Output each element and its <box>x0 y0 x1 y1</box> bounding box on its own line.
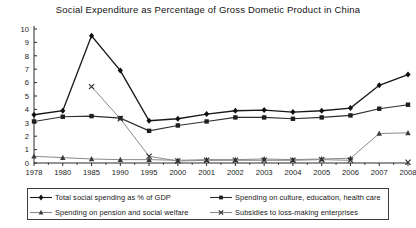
x-tick-label: 1995 <box>141 168 158 177</box>
data-point-diamond <box>290 109 295 115</box>
data-point-square <box>291 117 295 121</box>
legend-item-pension-social-welfare[interactable]: Spending on pension and social welfare <box>30 205 210 220</box>
data-point-square <box>61 115 65 119</box>
y-tick-label: 7 <box>25 65 29 74</box>
legend-label: Subsidies to loss-making enterprises <box>235 208 358 217</box>
data-point-square <box>406 103 410 107</box>
legend-item-culture-education-health[interactable]: Spending on culture, education, health c… <box>210 190 390 205</box>
data-point-diamond <box>60 108 65 114</box>
data-point-square <box>32 119 36 123</box>
data-point-diamond <box>233 108 238 114</box>
y-tick-label: 2 <box>25 132 29 141</box>
data-point-square <box>233 115 237 119</box>
x-tick-label: 1978 <box>26 168 43 177</box>
data-point-square <box>89 114 93 118</box>
data-point-diamond <box>319 108 324 114</box>
y-tick-label: 1 <box>25 145 29 154</box>
data-point-square <box>176 123 180 127</box>
x-tick-label: 2001 <box>198 168 215 177</box>
y-tick-label: 10 <box>21 25 29 34</box>
legend-item-subsidies-loss-making[interactable]: Subsidies to loss-making enterprises <box>210 205 390 220</box>
triangle-marker-icon <box>30 208 52 217</box>
data-point-square <box>204 119 208 123</box>
x-tick-label: 2007 <box>371 168 388 177</box>
data-point-cross <box>89 84 94 89</box>
data-point-square <box>147 129 151 133</box>
data-point-diamond <box>31 112 36 118</box>
legend-item-total-social-spending[interactable]: Total social spending as % of GDP <box>30 190 210 205</box>
data-point-diamond <box>175 116 180 122</box>
data-point-square <box>262 115 266 119</box>
plot-area: 012345678910 197819801985199019952000200… <box>0 18 416 183</box>
data-point-square <box>319 115 323 119</box>
x-tick-label: 2006 <box>342 168 359 177</box>
data-point-diamond <box>204 111 209 117</box>
y-tick-label: 4 <box>25 105 29 114</box>
y-tick-label: 0 <box>25 159 29 168</box>
data-point-square <box>377 107 381 111</box>
data-point-square <box>348 113 352 117</box>
x-tick-label: 2003 <box>256 168 273 177</box>
chart-container: Social Expenditure as Percentage of Gros… <box>0 0 416 228</box>
x-tick-label: 2000 <box>169 168 186 177</box>
y-tick-label: 3 <box>25 119 29 128</box>
y-tick-label: 9 <box>25 38 29 47</box>
y-axis: 012345678910 <box>21 25 37 168</box>
chart-legend: Total social spending as % of GDP Spendi… <box>27 188 389 220</box>
data-point-diamond <box>405 72 410 78</box>
data-point-diamond <box>262 107 267 113</box>
y-tick-label: 8 <box>25 52 29 61</box>
plot-svg: 012345678910 197819801985199019952000200… <box>0 18 416 183</box>
x-axis: 1978198019851990199520002001200220032004… <box>26 163 416 177</box>
y-tick-label: 6 <box>25 78 29 87</box>
x-tick-label: 1990 <box>112 168 129 177</box>
y-tick-label: 5 <box>25 92 29 101</box>
data-series-group <box>31 33 410 165</box>
x-tick-label: 1985 <box>83 168 100 177</box>
x-tick-label: 1980 <box>54 168 71 177</box>
legend-label: Total social spending as % of GDP <box>55 193 171 202</box>
x-tick-label: 2008 <box>400 168 416 177</box>
x-tick-label: 2004 <box>284 168 301 177</box>
square-marker-icon <box>210 193 232 202</box>
diamond-marker-icon <box>30 193 52 202</box>
x-tick-label: 2005 <box>313 168 330 177</box>
legend-label: Spending on pension and social welfare <box>55 208 188 217</box>
chart-title: Social Expenditure as Percentage of Gros… <box>0 4 416 16</box>
cross-marker-icon <box>210 208 232 217</box>
legend-label: Spending on culture, education, health c… <box>235 193 381 202</box>
x-tick-label: 2002 <box>227 168 244 177</box>
